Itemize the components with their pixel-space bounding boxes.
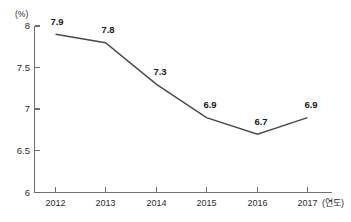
y-tick-label: 8 (25, 20, 30, 31)
data-point-label: 7.8 (101, 24, 114, 35)
line-chart-figure: (%) 8 7.5 7 6.5 6 2012 2013 2014 2015 20… (0, 0, 351, 222)
data-series-line (56, 34, 308, 134)
x-tick-label: 2015 (196, 198, 216, 208)
data-point-label: 6.9 (304, 99, 317, 110)
x-tick-label: 2014 (146, 198, 166, 208)
data-point-label: 7.9 (50, 16, 63, 27)
y-axis-ticks (35, 26, 41, 151)
x-tick-label: 2017 (297, 198, 317, 208)
data-point-label: 7.3 (153, 66, 166, 77)
y-tick-label: 6 (25, 187, 30, 198)
x-axis-ticks (56, 187, 308, 193)
x-tick-label: 2016 (247, 198, 267, 208)
y-tick-label: 6.5 (17, 145, 30, 156)
chart-canvas: (%) 8 7.5 7 6.5 6 2012 2013 2014 2015 20… (0, 0, 351, 222)
x-tick-label: 2012 (45, 198, 65, 208)
y-tick-label: 7.5 (17, 62, 30, 73)
x-tick-label: 2013 (95, 198, 115, 208)
x-axis-suffix-label: (연도) (322, 198, 344, 208)
y-tick-label: 7 (25, 103, 30, 114)
y-axis-unit-label: (%) (15, 9, 28, 19)
data-point-label: 6.9 (203, 99, 216, 110)
data-point-label: 6.7 (254, 116, 267, 127)
